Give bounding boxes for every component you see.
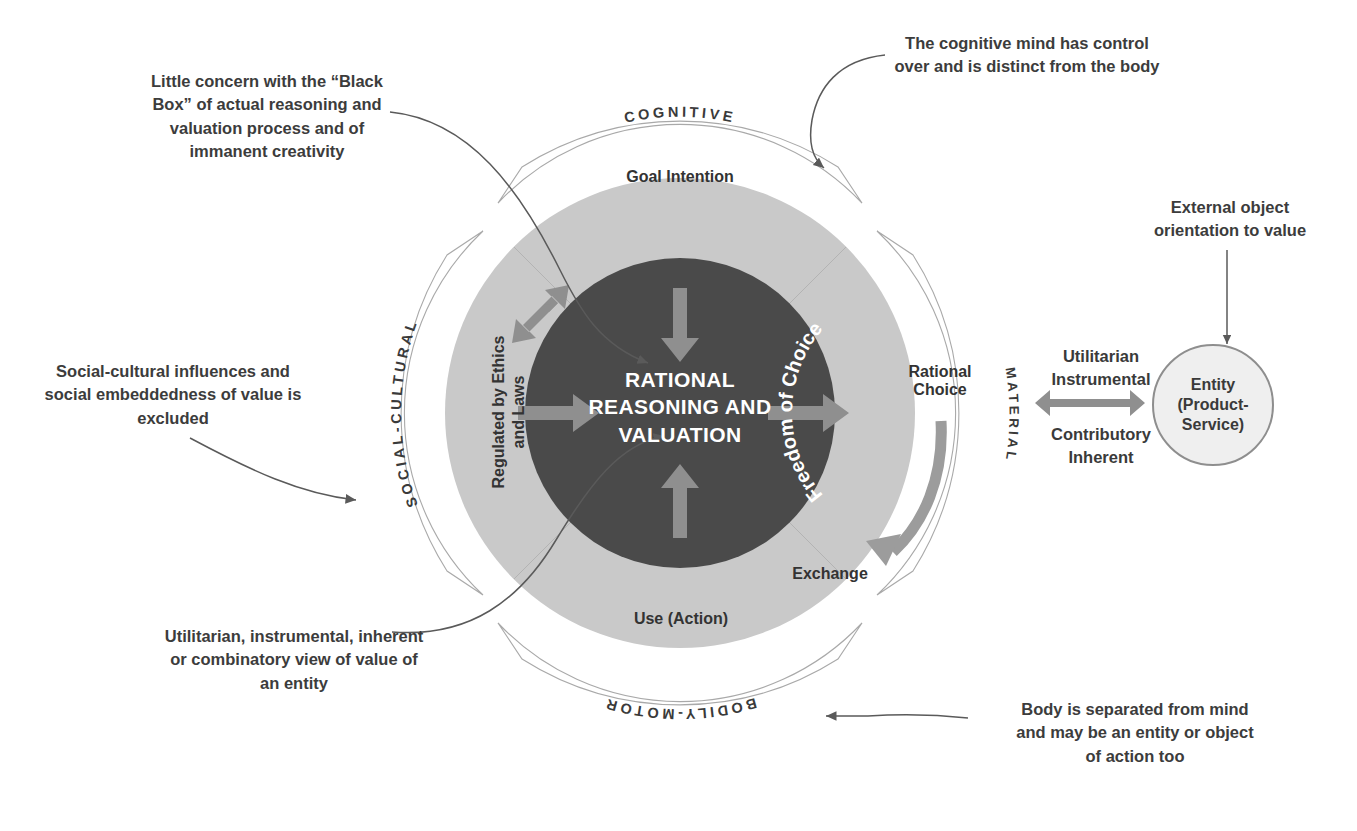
ring-label-use-action: Use (Action) bbox=[596, 610, 766, 628]
sector-label-bodily-motor: BODILY-MOTOR bbox=[602, 695, 759, 722]
annotation-social-cultural-excluded: Social-cultural influences and social em… bbox=[28, 360, 318, 430]
annotation-body-separated: Body is separated from mind and may be a… bbox=[975, 698, 1295, 768]
leader-social-cultural bbox=[190, 438, 356, 500]
ring-label-exchange: Exchange bbox=[750, 565, 910, 583]
annotation-external-object-orientation: External object orientation to value bbox=[1130, 196, 1330, 243]
sector-label-material: MATERIAL bbox=[1002, 366, 1021, 464]
entity-exchange-arrow bbox=[1035, 390, 1145, 416]
annotation-black-box: Little concern with the “Black Box” of a… bbox=[118, 70, 416, 164]
leader-body-separated bbox=[826, 715, 968, 718]
ring-label-regulated-ethics-laws: Regulated by Ethics and Laws bbox=[489, 322, 529, 502]
ring-label-rational-choice: Rational Choice bbox=[880, 363, 1000, 399]
annotation-utilitarian-view: Utilitarian, instrumental, inherent or c… bbox=[138, 625, 450, 695]
ring-label-goal-intention: Goal Intention bbox=[590, 168, 770, 186]
entity-node[interactable]: Entity (Product- Service) bbox=[1152, 344, 1274, 466]
sector-label-cognitive: COGNITIVE bbox=[623, 104, 738, 126]
annotation-cognitive-mind-control: The cognitive mind has control over and … bbox=[862, 32, 1192, 79]
exchange-axis-label-above: Utilitarian Instrumental bbox=[1032, 345, 1170, 391]
diagram-canvas: COGNITIVE BODILY-MOTOR SOCIAL-CULTURAL M… bbox=[0, 0, 1357, 831]
core-label: RATIONAL REASONING AND VALUATION bbox=[563, 366, 797, 448]
exchange-axis-label-below: Contributory Inherent bbox=[1032, 423, 1170, 469]
